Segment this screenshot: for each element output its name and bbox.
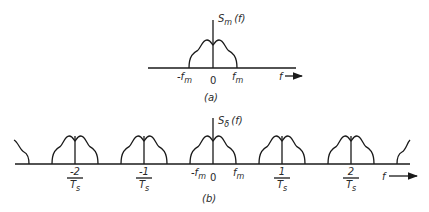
tick-zero-b: 0 <box>210 172 216 183</box>
tick-pos-fm-b: fm <box>233 167 245 181</box>
fraction-denominator: Ts <box>70 179 80 193</box>
fraction-denominator: Ts <box>346 179 356 193</box>
partial-replica-left <box>14 140 29 164</box>
fraction-numerator: 2 <box>348 166 354 177</box>
tick-neg-fm-a: -fm <box>177 71 192 85</box>
fraction-label-neg1: -1Ts <box>136 166 152 193</box>
xlabel-b: f <box>382 171 387 182</box>
fraction-label-pos1: 1Ts <box>274 166 290 193</box>
fraction-numerator: -2 <box>70 166 80 177</box>
caption-b: (b) <box>202 193 216 204</box>
ylabel-a: Sm(f) <box>218 13 245 27</box>
tick-zero-a: 0 <box>210 75 216 86</box>
fraction-numerator: -1 <box>139 166 149 177</box>
sampling-spectrum-diagram: Sm(f) -fm 0 fm f (a) Sδ(f) -fm 0 fm -2Ts… <box>0 0 429 212</box>
panel-a: Sm(f) -fm 0 fm f (a) <box>148 13 302 103</box>
caption-a: (a) <box>204 92 218 103</box>
fraction-label-neg2: -2Ts <box>67 166 83 193</box>
ylabel-b: Sδ(f) <box>218 115 243 129</box>
fraction-numerator: 1 <box>279 166 285 177</box>
panel-b: Sδ(f) -fm 0 fm -2Ts-1Ts1Ts2Ts f (b) <box>14 115 417 204</box>
partial-replica-right <box>397 140 410 164</box>
tick-neg-fm-b: -fm <box>191 167 206 181</box>
xlabel-a: f <box>279 71 284 82</box>
tick-pos-fm-a: fm <box>232 71 244 85</box>
fraction-denominator: Ts <box>139 179 149 193</box>
fraction-denominator: Ts <box>277 179 287 193</box>
fraction-label-pos2: 2Ts <box>343 166 359 193</box>
